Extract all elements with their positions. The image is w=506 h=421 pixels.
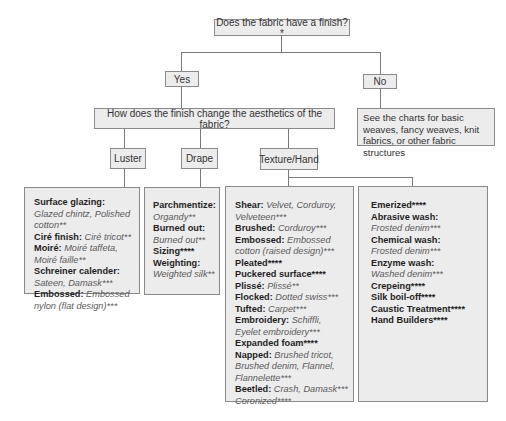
category-drape-box: Drape: [181, 148, 218, 169]
finish-item: Abrasive wash:Frosted denim***: [371, 212, 482, 235]
finish-item: Embossed: Embossed cotton (raised design…: [235, 235, 348, 258]
no-result-box: See the charts for basic weaves, fancy w…: [357, 108, 495, 146]
finish-item: Beetled: Crash, Damask***: [235, 384, 348, 396]
finish-item: Embroidery: Schiffli, Eyelet embroidery*…: [235, 315, 348, 338]
finish-item: Plissé: Plissé**: [235, 281, 348, 293]
connector-root-horizontal: [181, 52, 381, 53]
finish-item: Brushed: Corduroy***: [235, 223, 348, 235]
finish-item: Schreiner calender: Sateen, Damask***: [34, 266, 133, 289]
finish-item: Surface glazing: Glazed chintz, Polished…: [34, 197, 133, 232]
connector-texture-down: [288, 170, 289, 186]
finish-item: Flocked: Dotted swiss***: [235, 292, 348, 304]
root-question-label: Does the fabric have a finish?*: [215, 17, 349, 39]
drape-finishes-box: Parchmentize: Organdy** Burned out: Burn…: [144, 187, 220, 295]
no-box: No: [363, 74, 397, 89]
category-luster-label: Luster: [114, 153, 142, 164]
no-result-text: See the charts for basic weaves, fancy w…: [363, 112, 479, 158]
finish-item: Sizing****: [153, 246, 215, 258]
connector-no-down: [380, 88, 381, 108]
connector-to-no: [380, 52, 381, 74]
finish-item: Shear: Velvet, Corduroy, Velveteen***: [235, 200, 348, 223]
root-question-box: Does the fabric have a finish?*: [214, 19, 350, 36]
connector-drape-down: [200, 169, 201, 187]
connector-to-drape: [200, 129, 201, 148]
connector-to-yes: [181, 52, 182, 71]
no-label: No: [374, 76, 387, 87]
finish-item: Expanded foam****: [235, 338, 348, 350]
finish-item: Napped: Brushed tricot, Brushed denim, F…: [235, 350, 348, 385]
connector-to-luster: [124, 129, 125, 148]
texture-finishes-box-b: Emerized**** Abrasive wash:Frosted denim…: [358, 186, 488, 402]
category-texture-label: Texture/Hand: [259, 154, 318, 165]
finish-item: Crepeing****: [371, 281, 482, 293]
finish-item: Ciré finish: Ciré tricot**: [34, 232, 133, 244]
finish-item: Burned out: Burned out**: [153, 223, 215, 246]
finish-item: Caustic Treatment****: [371, 304, 482, 316]
finish-item: Silk boil-off****: [371, 292, 482, 304]
luster-finishes-box: Surface glazing: Glazed chintz, Polished…: [24, 187, 140, 294]
connector-to-texture: [288, 129, 289, 148]
finish-item: Hand Builders****: [371, 315, 482, 327]
connector-texture-b-down: [412, 177, 413, 186]
finish-item: Enzyme wash:Washed denim***: [371, 258, 482, 281]
finish-item: Moiré: Moiré taffeta, Moiré faille**: [34, 243, 133, 266]
yes-box: Yes: [165, 71, 199, 87]
category-texture-box: Texture/Hand: [260, 148, 318, 170]
connector-yes-down: [181, 87, 182, 108]
texture-finishes-box-a: Shear: Velvet, Corduroy, Velveteen*** Br…: [225, 186, 354, 402]
finish-item: Weighting: Weighted silk**: [153, 258, 215, 281]
yes-label: Yes: [174, 74, 190, 85]
finish-item: Tufted: Carpet***: [235, 304, 348, 316]
aesthetics-question-box: How does the finish change the aesthetic…: [94, 108, 335, 129]
category-drape-label: Drape: [186, 153, 213, 164]
category-luster-box: Luster: [110, 148, 146, 169]
aesthetics-question-label: How does the finish change the aesthetic…: [95, 108, 334, 130]
finish-item: Puckered surface****: [235, 269, 348, 281]
connector-texture-horizontal: [288, 177, 413, 178]
finish-item: Chemical wash:Frosted denim***: [371, 235, 482, 258]
finish-item: Coronized****: [235, 396, 348, 408]
finish-item: Pleated****: [235, 258, 348, 270]
connector-luster-down: [124, 169, 125, 187]
finish-item: Parchmentize: Organdy**: [153, 200, 215, 223]
finish-item: Embossed: Embossed nylon (flat design)**…: [34, 289, 133, 312]
finish-item: Emerized****: [371, 200, 482, 212]
